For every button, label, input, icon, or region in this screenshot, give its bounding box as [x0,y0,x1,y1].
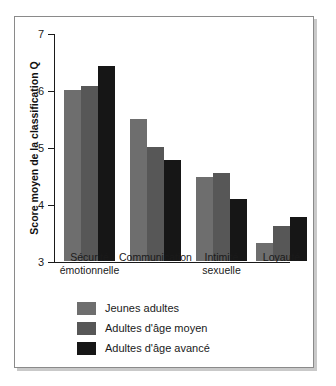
bar [147,147,164,261]
bar [164,160,181,261]
y-tick-label: 3 [38,257,44,268]
y-tick-5: 5 [48,148,55,149]
legend-item: Adultes d'âge avancé [77,338,210,358]
bar [81,86,98,261]
chart-figure: Score moyen de la classification Q 34567… [14,16,314,368]
legend-label: Adultes d'âge moyen [105,322,207,334]
bar [98,66,115,261]
y-tick-7: 7 [48,34,55,35]
legend-item: Adultes d'âge moyen [77,318,210,338]
legend-swatch [77,302,96,315]
y-tick-6: 6 [48,91,55,92]
plot-area: 34567 [54,34,290,262]
bar [213,173,230,261]
legend-swatch [77,322,96,335]
bar-group [64,33,115,261]
bar [64,90,81,261]
bar [130,119,147,262]
x-axis-label: Loyauté [237,251,327,264]
bar-group [130,33,181,261]
legend-item: Jeunes adultes [77,298,210,318]
bar [196,177,213,261]
y-tick-4: 4 [48,205,55,206]
legend-swatch [77,342,96,355]
bar-group [196,33,247,261]
chart-legend: Jeunes adultesAdultes d'âge moyenAdultes… [77,298,210,358]
y-tick-label: 4 [38,200,44,211]
y-tick-label: 6 [38,86,44,97]
legend-label: Jeunes adultes [105,302,179,314]
bar-group [256,33,307,261]
legend-label: Adultes d'âge avancé [105,342,210,354]
y-tick-label: 5 [38,143,44,154]
y-tick-label: 7 [38,29,44,40]
